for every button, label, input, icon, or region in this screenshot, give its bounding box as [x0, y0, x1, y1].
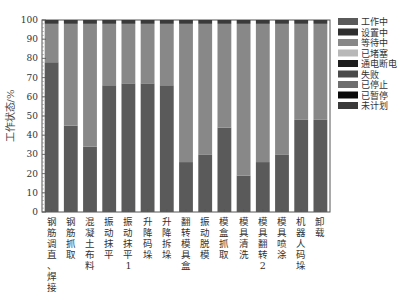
- legend: 工作中设置中等待中已堵塞通电断电失败已停止已暂停未计划: [338, 16, 397, 111]
- bar-segment: [64, 126, 78, 212]
- legend-swatch: [338, 71, 358, 78]
- bar-segment: [160, 20, 174, 24]
- y-tick-label: 50: [27, 111, 39, 121]
- x-tick-label-char: 具: [239, 227, 249, 238]
- legend-swatch: [338, 50, 358, 57]
- bar-segment: [275, 20, 289, 24]
- y-tick-label: 70: [27, 73, 39, 83]
- x-tick-label-char: 具: [277, 227, 287, 238]
- x-tick-label-char: 布: [85, 249, 95, 260]
- bar-segment: [294, 20, 308, 24]
- x-tick-label-char: 清: [239, 238, 249, 249]
- x-tick-label-char: 翻: [258, 238, 268, 249]
- x-tick-label-char: 振: [200, 216, 210, 227]
- x-tick-label-char: 拆: [162, 238, 172, 249]
- x-tick-label: 混凝土布料: [85, 216, 95, 271]
- bar-segment: [83, 147, 97, 212]
- x-tick-label-char: 升: [162, 216, 172, 227]
- bar-segment: [141, 24, 155, 84]
- legend-item: 设置中: [338, 27, 388, 38]
- legend-item: 已暂停: [338, 90, 388, 101]
- x-tick-label-char: 喷: [277, 238, 287, 249]
- y-tick-label: 80: [27, 53, 39, 63]
- x-tick-label-char: 凝: [85, 227, 95, 238]
- x-tick-label-char: 机: [296, 216, 306, 227]
- x-tick-label-char: 2: [260, 260, 266, 271]
- x-tick-label-char: 钢: [47, 216, 57, 227]
- legend-label: 通电断电: [361, 58, 397, 69]
- x-tick-label-char: 涂: [277, 249, 287, 260]
- x-tick-label-char: 平: [123, 249, 133, 260]
- x-tick-label-char: 模: [200, 249, 210, 260]
- legend-label: 未计划: [361, 100, 388, 111]
- x-tick-label-char: 垛: [162, 249, 172, 260]
- x-tick-label-char: 盒: [181, 260, 191, 271]
- legend-label: 等待中: [361, 37, 388, 48]
- bar-segment: [275, 24, 289, 155]
- bar-segment: [179, 20, 193, 24]
- legend-swatch: [338, 102, 358, 109]
- x-tick-label-char: 抓: [219, 238, 229, 249]
- x-tick-label: 升降拆垛: [162, 216, 172, 260]
- bar-segment: [217, 20, 231, 24]
- bar-segment: [256, 162, 270, 212]
- legend-swatch: [338, 39, 358, 46]
- x-tick-label-char: 动: [104, 227, 114, 238]
- x-tick-label: 模盒抓取: [219, 216, 229, 260]
- x-tick-label-char: 模: [181, 238, 191, 249]
- bar-segment: [294, 120, 308, 212]
- x-tick-label-char: 抹: [123, 238, 133, 249]
- x-tick-label-char: 盒: [219, 227, 229, 238]
- bar-segment: [256, 20, 270, 24]
- bar-segment: [313, 120, 327, 212]
- x-tick-label-char: 、: [47, 260, 57, 271]
- x-tick-label-char: 洗: [239, 249, 249, 260]
- x-tick-label-char: 翻: [181, 216, 191, 227]
- x-tick-label: 升降码垛: [143, 216, 153, 260]
- y-tick-label: 20: [27, 169, 39, 179]
- bar-segment: [256, 24, 270, 162]
- x-tick-label-char: 载: [315, 227, 325, 238]
- x-tick-label-char: 振: [104, 216, 114, 227]
- x-tick-label-char: 降: [162, 227, 172, 238]
- x-tick-label: 钢筋抓取: [66, 216, 76, 260]
- bar-segment: [64, 20, 78, 24]
- legend-label: 设置中: [361, 27, 388, 38]
- x-tick-label-char: 抓: [66, 238, 76, 249]
- x-tick-label: 翻转模具盒: [181, 216, 191, 271]
- x-tick-label-char: 接: [47, 282, 57, 293]
- bar-segment: [45, 24, 59, 62]
- x-tick-label-char: 脱: [200, 238, 210, 249]
- legend-label: 失败: [361, 69, 379, 80]
- bar-segment: [198, 154, 212, 212]
- bar-segment: [45, 62, 59, 212]
- legend-label: 已暂停: [361, 90, 388, 101]
- x-tick-label-char: 取: [219, 249, 229, 260]
- x-tick-label-char: 垛: [143, 249, 153, 260]
- x-tick-label-char: 筋: [47, 227, 57, 238]
- legend-swatch: [338, 92, 358, 99]
- y-tick-label: 30: [27, 149, 39, 159]
- bar-segment: [237, 24, 251, 176]
- bar-segment: [102, 20, 116, 24]
- x-tick-label-char: 模: [239, 216, 249, 227]
- x-tick-label-char: 模: [219, 216, 229, 227]
- legend-swatch: [338, 18, 358, 25]
- x-tick-label-char: 直: [47, 249, 57, 260]
- x-tick-label-char: 码: [296, 249, 306, 260]
- x-tick-label-char: 调: [47, 238, 57, 249]
- bar-segment: [217, 128, 231, 212]
- legend-item: 已堵塞: [338, 48, 388, 59]
- legend-label: 已堵塞: [361, 48, 388, 59]
- bar-segment: [102, 24, 116, 85]
- bar-segment: [237, 20, 251, 24]
- x-tick-label-char: 器: [296, 227, 306, 238]
- bar-segment: [121, 20, 135, 24]
- legend-label: 已停止: [361, 79, 388, 90]
- legend-item: 通电断电: [338, 58, 397, 69]
- legend-item: 已停止: [338, 79, 388, 90]
- legend-item: 失败: [338, 69, 379, 80]
- x-tick-label-char: 转: [258, 249, 268, 260]
- bar-segment: [313, 24, 327, 120]
- x-tick-label-char: 升: [143, 216, 153, 227]
